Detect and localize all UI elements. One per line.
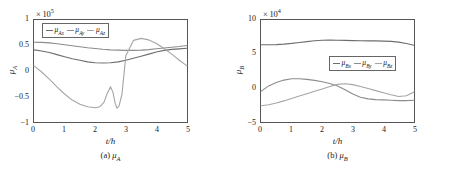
curve-mu-Az xyxy=(34,38,187,108)
curve-mu-By xyxy=(261,79,414,101)
ytick-label: −0.5 xyxy=(2,92,29,101)
curve-mu-Bx xyxy=(261,40,414,45)
panel-a: × 105 μAx μAy xyxy=(0,0,226,175)
figure-two-panel: × 105 μAx μAy xyxy=(0,0,453,175)
data-curves-b xyxy=(261,20,414,122)
xtick-label: 4 xyxy=(374,125,394,134)
legend-label: μBy xyxy=(362,58,371,69)
xtick-label: 1 xyxy=(281,125,301,134)
ytick-label: 10 xyxy=(229,14,256,23)
subplot-caption-a: (a) μA xyxy=(33,150,188,162)
legend-label: μAx xyxy=(55,25,64,36)
plot-area-a: μAx μAy μAz xyxy=(33,19,188,123)
legend-label: μAy xyxy=(75,25,84,36)
plot-area-b: μBx μBy μBz xyxy=(260,19,415,123)
xtick-label: 4 xyxy=(147,125,167,134)
cropped-caption-line xyxy=(60,168,390,174)
exponent-label-a: × 105 xyxy=(36,7,54,19)
xtick-label: 2 xyxy=(85,125,105,134)
xtick-label: 3 xyxy=(116,125,136,134)
ytick-label: 1 xyxy=(2,14,29,23)
y-axis-title-b: μB xyxy=(233,50,245,90)
legend-swatch xyxy=(87,30,94,31)
legend-item-mu-Ax: μAx xyxy=(46,25,64,36)
legend-item-mu-Bz: μBz xyxy=(375,58,393,69)
legend-label: μBz xyxy=(383,58,392,69)
xtick-label: 0 xyxy=(250,125,270,134)
x-axis-title-a: t/h xyxy=(33,136,188,146)
xtick-label: 0 xyxy=(23,125,43,134)
subplot-caption-b: (b) μB xyxy=(260,150,415,162)
xtick-label: 3 xyxy=(343,125,363,134)
exponent-label-b: × 104 xyxy=(263,7,281,19)
legend-item-mu-By: μBy xyxy=(354,58,372,69)
legend-a: μAx μAy μAz xyxy=(42,23,109,38)
xtick-mark xyxy=(227,19,228,22)
legend-swatch xyxy=(333,63,340,64)
curve-mu-Bz xyxy=(261,84,414,106)
legend-swatch xyxy=(354,63,361,64)
xtick-label: 5 xyxy=(178,125,198,134)
legend-swatch xyxy=(67,30,74,31)
legend-label: μAz xyxy=(96,25,105,36)
xtick-mark xyxy=(0,20,1,23)
legend-swatch xyxy=(375,63,382,64)
legend-label: μBx xyxy=(342,58,351,69)
xtick-label: 5 xyxy=(405,125,425,134)
x-axis-title-b: t/h xyxy=(260,136,415,146)
legend-item-mu-Ay: μAy xyxy=(67,25,85,36)
legend-swatch xyxy=(46,30,53,31)
y-axis-title-a: μA xyxy=(6,50,18,90)
curve-mu-Ax xyxy=(34,48,187,63)
ytick-label: 0.5 xyxy=(2,40,29,49)
panel-b: × 104 μBx μBy xyxy=(227,0,453,175)
xtick-label: 1 xyxy=(54,125,74,134)
legend-item-mu-Bx: μBx xyxy=(333,58,351,69)
xtick-label: 2 xyxy=(312,125,332,134)
legend-b: μBx μBy μBz xyxy=(329,56,396,71)
legend-item-mu-Az: μAz xyxy=(87,25,105,36)
